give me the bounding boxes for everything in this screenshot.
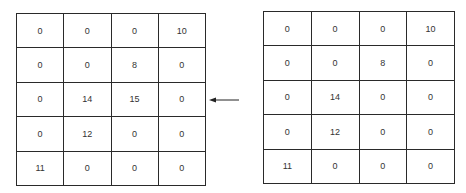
grid-cell: 11 <box>17 151 64 185</box>
grid-cell: 0 <box>311 149 359 183</box>
grid-cell: 0 <box>111 117 158 151</box>
grid-cell: 0 <box>359 80 407 114</box>
grid-cell: 8 <box>111 48 158 82</box>
left-grid: 0 0 0 10 0 0 8 0 0 14 15 0 0 12 0 0 11 0… <box>16 13 206 186</box>
grid-cell: 0 <box>264 12 312 46</box>
grid-cell: 0 <box>359 12 407 46</box>
grid-row: 0 0 0 10 <box>17 14 206 48</box>
grid-cell: 0 <box>158 117 205 151</box>
grid-cell: 0 <box>64 14 111 48</box>
grid-row: 11 0 0 0 <box>17 151 206 185</box>
grid-cell: 0 <box>17 117 64 151</box>
grid-cell: 0 <box>17 48 64 82</box>
grid-cell: 0 <box>311 46 359 80</box>
grid-cell: 0 <box>17 82 64 116</box>
grid-cell: 0 <box>407 149 455 183</box>
grid-cell: 0 <box>17 14 64 48</box>
grid-row: 11 0 0 0 <box>264 149 455 183</box>
grid-row: 0 0 8 0 <box>264 46 455 80</box>
grid-cell: 0 <box>407 46 455 80</box>
grid-row: 0 0 0 10 <box>264 12 455 46</box>
grid-cell: 0 <box>158 82 205 116</box>
grid-row: 0 12 0 0 <box>17 117 206 151</box>
grid-cell: 0 <box>158 151 205 185</box>
grid-row: 0 14 15 0 <box>17 82 206 116</box>
grid-cell: 0 <box>359 115 407 149</box>
right-grid: 0 0 0 10 0 0 8 0 0 14 0 0 0 12 0 0 11 0 … <box>263 11 455 184</box>
grid-cell: 0 <box>407 115 455 149</box>
grid-cell: 8 <box>359 46 407 80</box>
grid-cell: 0 <box>111 151 158 185</box>
grid-cell: 0 <box>311 12 359 46</box>
grid-cell: 12 <box>311 115 359 149</box>
grid-cell: 0 <box>64 48 111 82</box>
grid-cell: 0 <box>359 149 407 183</box>
grid-cell: 0 <box>264 80 312 114</box>
grid-row: 0 0 8 0 <box>17 48 206 82</box>
grid-row: 0 12 0 0 <box>264 115 455 149</box>
grid-cell: 14 <box>311 80 359 114</box>
grid-cell: 0 <box>264 115 312 149</box>
grid-cell: 0 <box>158 48 205 82</box>
grid-cell: 15 <box>111 82 158 116</box>
grid-cell: 14 <box>64 82 111 116</box>
grid-row: 0 14 0 0 <box>264 80 455 114</box>
grid-cell: 0 <box>64 151 111 185</box>
grid-cell: 11 <box>264 149 312 183</box>
grid-cell: 10 <box>158 14 205 48</box>
grid-cell: 0 <box>111 14 158 48</box>
grid-cell: 10 <box>407 12 455 46</box>
arrow-left-icon <box>209 96 239 104</box>
grid-cell: 0 <box>407 80 455 114</box>
grid-cell: 0 <box>264 46 312 80</box>
grid-cell: 12 <box>64 117 111 151</box>
